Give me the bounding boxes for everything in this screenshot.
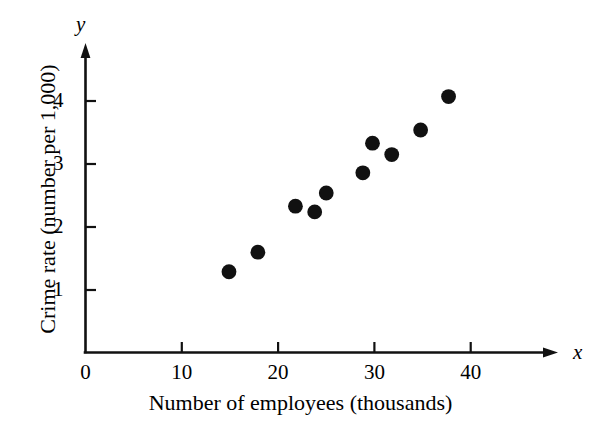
data-point <box>365 136 380 151</box>
x-tick-label: 10 <box>152 362 212 383</box>
data-point <box>250 245 265 260</box>
data-point <box>288 199 303 214</box>
x-axis-variable-label: x <box>573 342 582 363</box>
x-axis-title: Number of employees (thousands) <box>0 392 601 414</box>
data-points-group <box>222 89 456 279</box>
x-tick-label: 20 <box>248 362 308 383</box>
scatter-plot-figure: 010203040 1234 x y Number of employees (… <box>0 0 601 428</box>
x-tick-label: 0 <box>56 362 116 383</box>
x-tick-label: 40 <box>441 362 501 383</box>
x-tick-marks <box>182 342 471 352</box>
x-axis-arrowhead <box>543 347 558 357</box>
data-point <box>413 123 428 138</box>
data-point <box>441 89 456 104</box>
y-axis-arrowhead <box>81 43 91 58</box>
data-point <box>222 264 237 279</box>
y-axis-variable-label: y <box>76 14 85 35</box>
x-tick-label: 30 <box>344 362 404 383</box>
y-axis-title: Crime rate (number per 1,000) <box>37 49 59 349</box>
data-point <box>307 204 322 219</box>
y-tick-marks <box>86 101 97 290</box>
data-point <box>355 165 370 180</box>
data-point <box>384 147 399 162</box>
data-point <box>319 186 334 201</box>
